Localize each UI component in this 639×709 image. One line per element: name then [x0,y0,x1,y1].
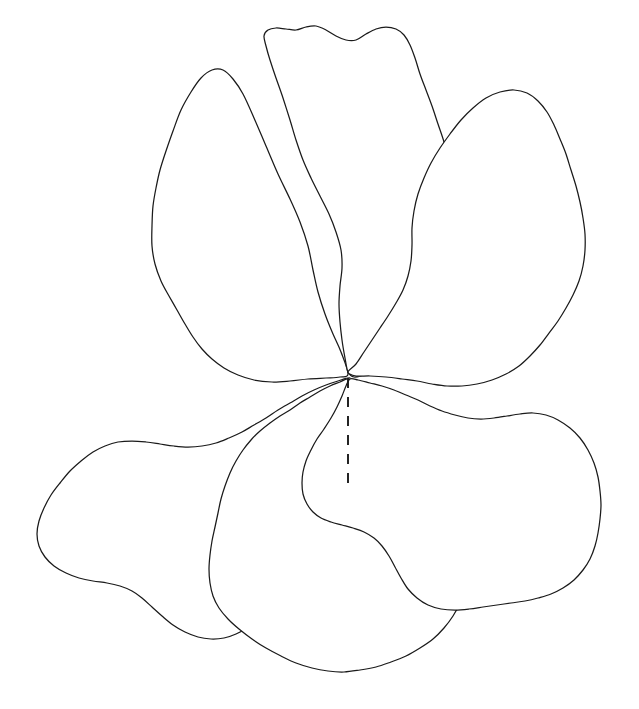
flower-line-drawing [0,0,639,709]
flower-illustration-root [0,0,639,709]
